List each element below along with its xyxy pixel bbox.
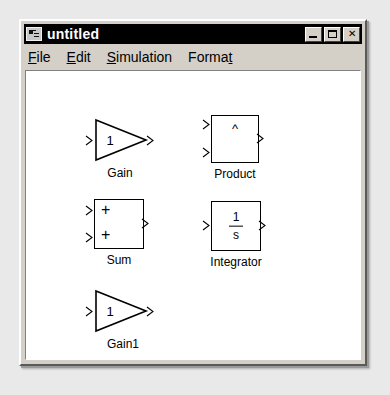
block-gain[interactable]: 1 Gain (94, 118, 156, 162)
menu-accel-simulation: S (107, 49, 116, 65)
menu-rest-edit: dit (76, 49, 91, 65)
gain-label: Gain (107, 166, 132, 180)
menu-accel-format: t (229, 49, 233, 65)
integrator-numerator: 1 (229, 211, 243, 224)
block-sum[interactable]: + + Sum (94, 199, 154, 251)
model-window: untitled ✕ File Edit Simulation Format (19, 19, 367, 366)
sum-body: + + (94, 199, 144, 249)
menu-accel-file: F (28, 49, 37, 65)
window-title: untitled (47, 26, 305, 42)
gain1-input-port[interactable] (85, 306, 94, 317)
product-label: Product (214, 167, 255, 181)
product-body: ^ (211, 115, 259, 163)
integrator-input-port[interactable] (202, 220, 211, 231)
maximize-button[interactable] (324, 27, 341, 42)
sum-output-port[interactable] (141, 218, 150, 229)
integrator-body: 1 s (211, 201, 261, 251)
integrator-transfer-function: 1 s (229, 211, 243, 242)
gain1-triangle-shape (94, 289, 150, 333)
menu-item-format[interactable]: Format (188, 49, 232, 65)
gain1-label: Gain1 (107, 337, 139, 351)
integrator-label: Integrator (210, 255, 261, 269)
maximize-icon (328, 30, 337, 38)
gain-triangle-shape (94, 118, 150, 162)
close-icon: ✕ (344, 28, 359, 41)
menu-accel-edit: E (67, 49, 76, 65)
product-operator: ^ (232, 121, 238, 134)
close-button[interactable]: ✕ (343, 27, 360, 42)
sum-input-port-1[interactable] (85, 205, 94, 216)
integrator-output-port[interactable] (258, 220, 267, 231)
sum-sign-1: + (101, 202, 110, 218)
menu-rest-format: Forma (188, 49, 228, 65)
menu-rest-file: ile (37, 49, 51, 65)
menu-item-file[interactable]: File (28, 49, 51, 65)
product-input-port-2[interactable] (202, 147, 211, 158)
sum-input-port-2[interactable] (85, 232, 94, 243)
menu-item-simulation[interactable]: Simulation (107, 49, 172, 65)
gain1-value: 1 (106, 304, 113, 319)
sum-label: Sum (107, 253, 132, 267)
integrator-denominator: s (229, 229, 243, 242)
gain-output-port[interactable] (146, 135, 155, 146)
gain1-output-port[interactable] (146, 306, 155, 317)
minimize-icon (309, 36, 317, 38)
sum-sign-2: + (101, 227, 110, 243)
menu-item-edit[interactable]: Edit (67, 49, 91, 65)
window-controls: ✕ (305, 27, 360, 42)
minimize-button[interactable] (305, 27, 322, 42)
simulink-model-icon (26, 27, 42, 41)
menu-rest-simulation: imulation (116, 49, 172, 65)
block-integrator[interactable]: 1 s Integrator (211, 201, 273, 253)
block-gain1[interactable]: 1 Gain1 (94, 289, 156, 333)
product-input-port-1[interactable] (202, 119, 211, 130)
menu-bar: File Edit Simulation Format (24, 46, 362, 68)
gain-value: 1 (106, 133, 113, 148)
fraction-bar (229, 225, 243, 227)
model-canvas[interactable]: 1 Gain ^ (25, 70, 361, 360)
title-bar[interactable]: untitled ✕ (24, 24, 362, 44)
product-output-port[interactable] (256, 133, 265, 144)
gain-input-port[interactable] (85, 135, 94, 146)
block-product[interactable]: ^ Product (211, 115, 271, 165)
